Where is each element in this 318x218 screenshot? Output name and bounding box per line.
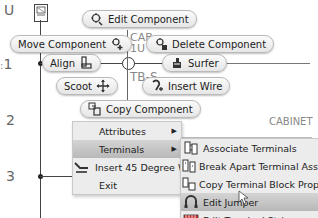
edit-component-button[interactable]: Edit Component (82, 10, 197, 28)
rung-number-1: :1 (0, 56, 12, 72)
rung-3-wire (40, 176, 72, 177)
edit-jumper-icon (181, 195, 201, 209)
submenu-arrow-icon: ▶ (172, 145, 177, 153)
menu-item-break-apart-terminal-association[interactable]: Break Apart Terminal Associa (181, 157, 318, 175)
align-icon (79, 56, 93, 70)
component-symbol[interactable] (34, 4, 48, 22)
submenu-arrow-icon: ▶ (172, 127, 177, 135)
one-u-label: 1U (130, 42, 145, 55)
terminals-submenu: Associate Terminals Break Apart Terminal… (180, 138, 318, 218)
associate-terminals-icon (181, 141, 201, 155)
context-menu: Attributes ▶ Terminals ▶ Insert 45 Degre… (72, 121, 182, 195)
menu-item-terminals[interactable]: Terminals ▶ (73, 140, 181, 158)
scoot-button[interactable]: Scoot (56, 77, 118, 95)
delete-component-button[interactable]: Delete Component (146, 35, 274, 53)
edit-terminal-strip-icon (181, 213, 201, 218)
insert-wire-icon (150, 79, 164, 93)
menu-item-copy-terminal-block-properties[interactable]: Copy Terminal Block Properti (181, 175, 318, 193)
menu-item-insert-45-degree-wire[interactable]: Insert 45 Degree Wire (73, 158, 181, 176)
delete-component-icon (154, 37, 168, 51)
move-component-icon (110, 37, 124, 51)
insert-wire-button[interactable]: Insert Wire (142, 77, 230, 95)
mouse-cursor-icon (238, 190, 248, 209)
break-apart-icon (181, 159, 197, 173)
rung-number-2: 2 (6, 112, 15, 128)
copy-terminal-block-icon (181, 177, 197, 191)
surfer-icon (170, 56, 184, 70)
edit-component-icon (90, 12, 104, 26)
insert-45-wire-icon (73, 160, 89, 174)
scoot-icon (96, 79, 110, 93)
rung-number-u: U (4, 2, 14, 18)
rung-number-3: 3 (6, 168, 15, 184)
move-component-button[interactable]: Move Component (10, 35, 132, 53)
align-button[interactable]: Align (42, 54, 101, 72)
rung-1-wire-right (214, 63, 310, 64)
menu-item-edit-jumper[interactable]: Edit Jumper (181, 193, 318, 211)
menu-item-edit-terminal-strip[interactable]: Edit Terminal Strip (181, 211, 318, 218)
copy-component-icon (88, 102, 102, 116)
surfer-button[interactable]: Surfer (162, 54, 227, 72)
menu-item-exit[interactable]: Exit (73, 176, 181, 194)
cabinet-label: CABINET (269, 116, 313, 127)
menu-item-associate-terminals[interactable]: Associate Terminals (181, 139, 318, 157)
copy-component-button[interactable]: Copy Component (80, 100, 201, 118)
terminal-circle[interactable] (122, 57, 135, 70)
menu-item-attributes[interactable]: Attributes ▶ (73, 122, 181, 140)
